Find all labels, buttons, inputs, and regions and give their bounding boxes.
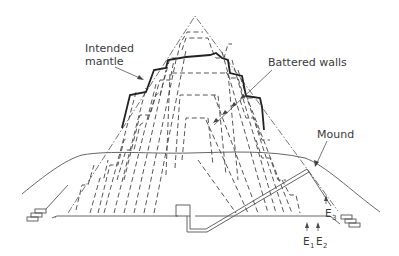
e3-subscript: 3 [332, 214, 336, 222]
entrance-marker-e1: E 1 [303, 222, 314, 250]
e1-subscript: 1 [310, 242, 314, 250]
intended-mantle-label-line1: Intended [85, 42, 134, 55]
battered-walls-label-text: Battered walls [268, 56, 347, 69]
mound-label: Mound [314, 128, 354, 167]
intended-mantle-label: Intended mantle [85, 42, 144, 80]
e2-subscript: 2 [323, 242, 327, 250]
inner-core [166, 73, 238, 180]
battered-walls-right [198, 44, 300, 213]
entrance-marker-e2: E 2 [316, 222, 327, 250]
descending-passage [176, 169, 331, 232]
intended-mantle-label-line2: mantle [85, 55, 124, 68]
right-steps [341, 215, 360, 227]
e1-label: E [303, 235, 310, 247]
pyramid-cross-section-diagram: Intended mantle Battered walls Mound E 1… [0, 0, 399, 256]
ground-line [52, 216, 340, 224]
e3-label: E [325, 207, 332, 219]
e2-label: E [316, 235, 323, 247]
mound-label-text: Mound [317, 128, 354, 141]
entrance-marker-e3: E 3 [324, 195, 336, 222]
